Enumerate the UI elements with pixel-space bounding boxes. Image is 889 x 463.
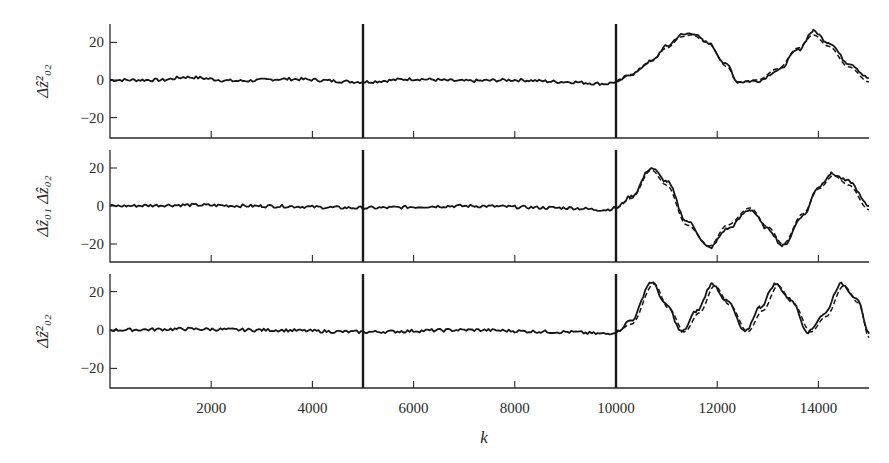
y-axis-label: Δẑ₀₁ Δẑ₀₂ <box>33 175 52 237</box>
y-tick-label: 20 <box>89 284 104 300</box>
y-tick-label: −20 <box>81 236 104 252</box>
x-tick-label: 14000 <box>800 400 838 416</box>
panel-2: −20020Δẑ₀₁ Δẑ₀₂ <box>33 150 869 262</box>
x-tick-label: 4000 <box>297 400 327 416</box>
x-axis-label: k <box>480 428 488 447</box>
x-tick-label: 8000 <box>500 400 530 416</box>
x-tick-label: 12000 <box>698 400 736 416</box>
panel-1: −20020Δẑ²₀₂ <box>33 24 869 138</box>
y-tick-label: 20 <box>89 160 104 176</box>
panel-3: −20020Δẑ²₀₂ <box>33 274 869 388</box>
y-axis-label: Δẑ²₀₂ <box>33 64 52 99</box>
y-tick-label: −20 <box>81 110 104 126</box>
estimate-line <box>110 282 869 334</box>
x-tick-labels: 2000400060008000100001200014000 <box>196 400 837 416</box>
y-tick-label: 0 <box>97 72 105 88</box>
true-value-line <box>616 170 869 246</box>
y-tick-label: 20 <box>89 34 104 50</box>
y-tick-label: −20 <box>81 360 104 376</box>
estimate-line <box>110 30 869 85</box>
y-tick-label: 0 <box>97 198 105 214</box>
x-tick-label: 2000 <box>196 400 226 416</box>
panels-group: −20020Δẑ²₀₂−20020Δẑ₀₁ Δẑ₀₂−20020Δẑ²₀₂ <box>33 24 869 388</box>
y-tick-label: 0 <box>97 322 105 338</box>
x-tick-label: 6000 <box>399 400 429 416</box>
y-axis-label: Δẑ²₀₂ <box>33 314 52 349</box>
estimate-line <box>110 168 869 248</box>
figure-canvas: −20020Δẑ²₀₂−20020Δẑ₀₁ Δẑ₀₂−20020Δẑ²₀₂ 20… <box>0 0 889 463</box>
x-tick-label: 10000 <box>597 400 635 416</box>
